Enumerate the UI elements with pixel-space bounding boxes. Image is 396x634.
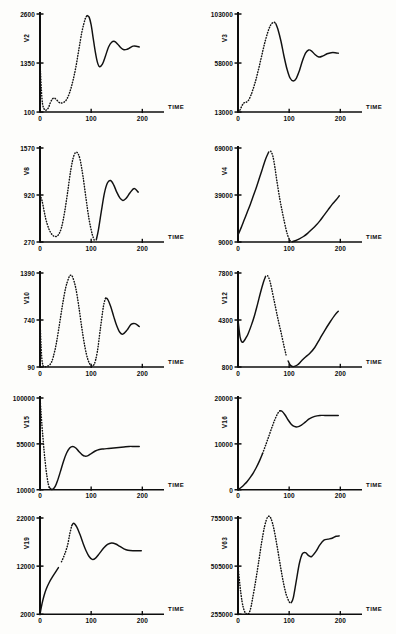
x-tick-label: 100 <box>86 370 97 377</box>
y-tick-label: 255000 <box>211 611 233 618</box>
y-axis-label: V19 <box>23 537 30 549</box>
plot-panel-v3: 1030005800013000V30100200TIME <box>198 0 396 134</box>
data-curve-segment-0 <box>238 152 269 235</box>
x-tick-label: 200 <box>335 115 346 122</box>
x-tick-label: 100 <box>284 370 295 377</box>
plot-panel-v63: 755000505000255000V630100200TIME <box>198 504 396 634</box>
y-axis-label: V2 <box>23 34 30 42</box>
plot-panel-v19: 22000120002000V190100200TIME <box>0 504 198 634</box>
x-tick-label: 200 <box>137 245 148 252</box>
x-tick-label: 0 <box>236 245 240 252</box>
y-tick-label: 103000 <box>211 11 233 18</box>
x-tick-label: 0 <box>38 617 42 624</box>
plot-panel-v12: 78004300800V120100200TIME <box>198 259 396 384</box>
data-curve-segment-1 <box>87 16 139 67</box>
x-tick-label: 0 <box>236 115 240 122</box>
x-tick-label: 100 <box>284 492 295 499</box>
data-curve-segment-1 <box>291 536 339 603</box>
y-tick-label: 9000 <box>218 239 233 246</box>
plot-grid: 26001350100V20100200TIME1030005800013000… <box>0 0 396 634</box>
x-tick-label: 100 <box>86 492 97 499</box>
x-tick-label: 100 <box>284 115 295 122</box>
data-curve-segment-1 <box>271 151 290 241</box>
data-curve-segment-0 <box>40 275 105 367</box>
x-axis-label: TIME <box>168 482 184 488</box>
data-curve-segment-1 <box>96 180 138 239</box>
y-tick-label: 755000 <box>211 515 233 522</box>
y-tick-label: 100 <box>24 109 35 116</box>
y-axis-label: V16 <box>221 416 228 428</box>
x-tick-label: 0 <box>38 370 42 377</box>
x-axis-label: TIME <box>366 482 382 488</box>
data-curve-segment-2 <box>288 311 338 366</box>
y-axis-label: V3 <box>221 34 228 42</box>
x-tick-label: 200 <box>137 492 148 499</box>
x-axis-label: TIME <box>168 234 184 240</box>
data-curve-segment-0 <box>238 454 263 490</box>
data-curve-segment-1 <box>49 446 139 489</box>
x-tick-label: 0 <box>38 115 42 122</box>
y-tick-label: 2000 <box>20 611 35 618</box>
y-tick-label: 800 <box>222 364 233 371</box>
x-tick-label: 200 <box>137 617 148 624</box>
plot-panel-v2: 26001350100V20100200TIME <box>0 0 198 134</box>
y-tick-label: 2600 <box>20 11 35 18</box>
x-tick-label: 100 <box>86 115 97 122</box>
data-curve-segment-1 <box>268 276 286 355</box>
y-tick-label: 12000 <box>16 563 35 570</box>
data-curve-segment-1 <box>61 526 71 562</box>
y-tick-label: 69000 <box>214 145 233 152</box>
x-axis-label: TIME <box>168 104 184 110</box>
y-tick-label: 10000 <box>214 440 233 447</box>
data-curve-segment-1 <box>263 411 280 454</box>
y-tick-label: 10000 <box>16 486 35 493</box>
x-tick-label: 0 <box>236 370 240 377</box>
y-tick-label: 55000 <box>16 440 35 447</box>
y-axis-label: V12 <box>221 292 228 304</box>
x-tick-label: 0 <box>236 492 240 499</box>
x-tick-label: 200 <box>335 370 346 377</box>
data-curve-segment-0 <box>238 276 266 342</box>
y-tick-label: 1570 <box>20 145 35 152</box>
y-tick-label: 920 <box>24 192 35 199</box>
y-tick-label: 7800 <box>218 270 233 277</box>
y-tick-label: 505000 <box>211 563 233 570</box>
figure-plot-grid: 26001350100V20100200TIME1030005800013000… <box>0 0 396 634</box>
x-axis-label: TIME <box>168 359 184 365</box>
x-tick-label: 0 <box>236 617 240 624</box>
y-tick-label: 20000 <box>214 395 233 402</box>
x-tick-label: 100 <box>284 245 295 252</box>
data-curve-segment-2 <box>280 411 338 427</box>
y-axis-label: V4 <box>221 167 228 175</box>
plot-panel-v10: 139074090V100100200TIME <box>0 259 198 384</box>
y-tick-label: 39000 <box>214 192 233 199</box>
x-tick-label: 0 <box>38 492 42 499</box>
y-axis-label: V8 <box>23 167 30 175</box>
x-axis-label: TIME <box>366 359 382 365</box>
x-axis-label: TIME <box>168 606 184 612</box>
plot-panel-v4: 69000390009000V40100200TIME <box>198 134 396 259</box>
plot-panel-v16: 20000100000V160100200TIME <box>198 384 396 504</box>
data-curve-segment-0 <box>40 568 58 615</box>
y-axis-label: V63 <box>221 537 228 549</box>
x-tick-label: 200 <box>335 492 346 499</box>
x-tick-label: 200 <box>335 617 346 624</box>
y-tick-label: 13000 <box>214 109 233 116</box>
x-tick-label: 200 <box>137 370 148 377</box>
x-tick-label: 100 <box>284 617 295 624</box>
y-tick-label: 90 <box>28 364 35 371</box>
data-curve-segment-0 <box>238 22 276 112</box>
y-axis-label: V15 <box>23 416 30 428</box>
data-curve-segment-1 <box>105 298 139 334</box>
y-tick-label: 1390 <box>20 270 35 277</box>
y-axis-label: V10 <box>23 292 30 304</box>
x-tick-label: 100 <box>86 245 97 252</box>
y-tick-label: 4300 <box>218 317 233 324</box>
y-tick-label: 740 <box>24 317 35 324</box>
data-curve-segment-0 <box>40 16 87 111</box>
data-curve-segment-2 <box>292 196 339 242</box>
x-axis-label: TIME <box>366 234 382 240</box>
data-curve-segment-0 <box>40 152 94 240</box>
y-tick-label: 0 <box>229 486 233 493</box>
data-curve-segment-1 <box>276 24 338 81</box>
